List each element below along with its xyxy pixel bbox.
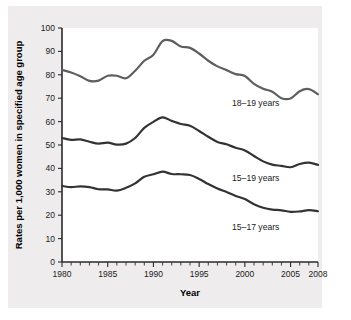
x-tick-label-1990: 1990 bbox=[144, 269, 163, 279]
y-tick-label-60: 60 bbox=[46, 117, 56, 127]
x-tick-label-1980: 1980 bbox=[53, 269, 72, 279]
x-tick-label-2000: 2000 bbox=[235, 269, 254, 279]
y-tick-label-50: 50 bbox=[46, 140, 56, 150]
x-axis-title: Year bbox=[180, 287, 200, 298]
chart-plot-area: 0102030405060708090100 19801985199019952… bbox=[0, 0, 351, 320]
x-tick-label-1985: 1985 bbox=[98, 269, 117, 279]
y-tick-label-20: 20 bbox=[46, 210, 56, 220]
y-tick-label-80: 80 bbox=[46, 70, 56, 80]
y-tick-label-10: 10 bbox=[46, 234, 56, 244]
x-tick-label-1995: 1995 bbox=[190, 269, 209, 279]
y-tick-label-40: 40 bbox=[46, 163, 56, 173]
series-label-1: 15–19 years bbox=[232, 173, 279, 183]
series-label-0: 18–19 years bbox=[232, 98, 279, 108]
series-label-2: 15–17 years bbox=[232, 222, 279, 232]
plot-background bbox=[62, 28, 318, 262]
line-chart-svg: 0102030405060708090100 19801985199019952… bbox=[0, 0, 351, 320]
y-tick-label-70: 70 bbox=[46, 93, 56, 103]
y-tick-label-30: 30 bbox=[46, 187, 56, 197]
y-tick-label-90: 90 bbox=[46, 46, 56, 56]
figure: 0102030405060708090100 19801985199019952… bbox=[0, 0, 351, 320]
y-tick-label-100: 100 bbox=[41, 23, 55, 33]
y-tick-label-0: 0 bbox=[50, 257, 55, 267]
x-axis-ticks: 1980198519901995200020052008 bbox=[53, 269, 328, 279]
x-tick-label-2008: 2008 bbox=[309, 269, 328, 279]
y-axis-ticks: 0102030405060708090100 bbox=[41, 23, 62, 267]
x-tick-label-2005: 2005 bbox=[281, 269, 300, 279]
y-axis-title: Rates per 1,000 women in specified age g… bbox=[13, 41, 24, 250]
